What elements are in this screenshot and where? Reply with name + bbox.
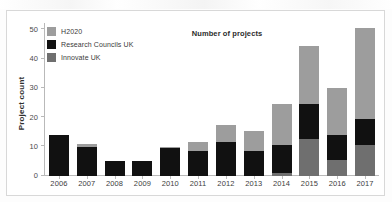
bar-segment[interactable]: [49, 135, 69, 176]
bar-segment[interactable]: [77, 147, 97, 176]
x-axis-tick-label: 2011: [190, 179, 207, 188]
bar-stack[interactable]: [272, 104, 292, 176]
x-axis-tick-label: 2012: [217, 179, 234, 188]
bar-stack[interactable]: [188, 142, 208, 176]
bar-segment[interactable]: [355, 145, 375, 176]
bar-segment[interactable]: [216, 125, 236, 143]
bar-segment[interactable]: [299, 104, 319, 139]
bar-group[interactable]: [45, 23, 73, 176]
bar-segment[interactable]: [188, 142, 208, 151]
page-background: Project count Number of projects H2020 R…: [0, 0, 392, 202]
y-axis-tick-label: 20: [29, 112, 38, 121]
x-axis-tick-label: 2016: [329, 179, 346, 188]
bar-stack[interactable]: [216, 125, 236, 176]
bar-group[interactable]: [351, 23, 379, 176]
scan-artifact-strip: [0, 0, 392, 9]
x-axis-tick-label: 2006: [50, 179, 67, 188]
bar-stack[interactable]: [299, 46, 319, 176]
bar-segment[interactable]: [132, 161, 152, 176]
x-axis-tick-label: 2010: [162, 179, 179, 188]
bar-stack[interactable]: [244, 131, 264, 176]
bar-group[interactable]: [296, 23, 324, 176]
bar-segment[interactable]: [299, 46, 319, 104]
bar-stack[interactable]: [355, 28, 375, 176]
bar-segment[interactable]: [327, 160, 347, 176]
bar-series-container: [45, 23, 379, 176]
y-axis-tick-label: 0: [34, 171, 38, 180]
bar-segment[interactable]: [272, 104, 292, 145]
bar-group[interactable]: [101, 23, 129, 176]
bar-group[interactable]: [73, 23, 101, 176]
x-axis-tick-label: 2013: [245, 179, 262, 188]
bar-stack[interactable]: [327, 88, 347, 176]
y-axis-tick-label: 30: [29, 83, 38, 92]
x-axis-tick-label: 2015: [301, 179, 318, 188]
bar-segment[interactable]: [244, 131, 264, 151]
bar-segment[interactable]: [355, 119, 375, 145]
x-axis-tick-label: 2009: [134, 179, 151, 188]
x-axis-tick-label: 2008: [106, 179, 123, 188]
plot-area: Project count Number of projects H2020 R…: [7, 11, 386, 197]
bar-segment[interactable]: [244, 151, 264, 176]
bar-segment[interactable]: [160, 148, 180, 176]
bar-stack[interactable]: [160, 147, 180, 176]
bar-group[interactable]: [184, 23, 212, 176]
bar-segment[interactable]: [327, 88, 347, 135]
bar-group[interactable]: [240, 23, 268, 176]
bar-segment[interactable]: [327, 135, 347, 160]
x-axis-tick-label: 2014: [273, 179, 290, 188]
y-axis-ticks: 01020304050: [7, 11, 44, 197]
bar-stack[interactable]: [77, 144, 97, 176]
bar-stack[interactable]: [105, 161, 125, 176]
y-axis-tick-label: 50: [29, 24, 38, 33]
bar-segment[interactable]: [105, 161, 125, 176]
bar-stack[interactable]: [132, 161, 152, 176]
y-axis-tick-label: 10: [29, 141, 38, 150]
bar-group[interactable]: [323, 23, 351, 176]
x-axis-tick-label: 2017: [357, 179, 374, 188]
y-axis-tick-label: 40: [29, 54, 38, 63]
bar-segment[interactable]: [216, 142, 236, 176]
bar-segment[interactable]: [188, 151, 208, 176]
bar-segment[interactable]: [272, 145, 292, 173]
bar-group[interactable]: [129, 23, 157, 176]
chart-figure: Project count Number of projects H2020 R…: [6, 10, 385, 196]
bar-group[interactable]: [212, 23, 240, 176]
bar-group[interactable]: [268, 23, 296, 176]
bar-group[interactable]: [156, 23, 184, 176]
bar-segment[interactable]: [299, 139, 319, 176]
bar-segment[interactable]: [355, 28, 375, 119]
x-axis-tick-label: 2007: [78, 179, 95, 188]
bar-stack[interactable]: [49, 135, 69, 176]
